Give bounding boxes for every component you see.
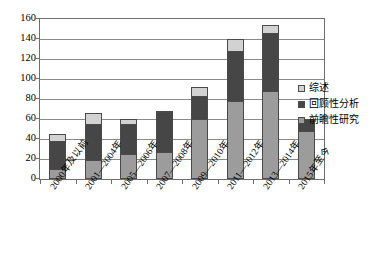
- bar-segment-回顾性分析: [191, 96, 208, 119]
- y-axis-tick-60: 60: [6, 113, 36, 124]
- legend-label: 综述: [309, 83, 329, 93]
- bar-6: [227, 39, 244, 179]
- bar-segment-回顾性分析: [120, 124, 137, 154]
- y-axis-tick-100: 100: [6, 73, 36, 84]
- x-tick-mark: [182, 180, 183, 184]
- y-tick-mark: [35, 98, 39, 99]
- y-tick-mark: [35, 18, 39, 19]
- bar-segment-综述: [262, 25, 279, 33]
- bar-segment-回顾性分析: [227, 51, 244, 101]
- y-axis-tick-160: 160: [6, 13, 36, 24]
- y-tick-mark: [35, 178, 39, 179]
- y-tick-mark: [35, 138, 39, 139]
- bar-segment-回顾性分析: [262, 33, 279, 91]
- y-axis-tick-40: 40: [6, 133, 36, 144]
- x-tick-mark: [289, 180, 290, 184]
- x-tick-mark: [324, 180, 325, 184]
- bar-segment-综述: [227, 39, 244, 51]
- stacked-bar-chart: 160 140 120 100 80 60 40 20 0 2000年及以前20…: [0, 0, 371, 258]
- y-tick-mark: [35, 78, 39, 79]
- legend-swatch-icon: [298, 117, 305, 124]
- x-tick-mark: [111, 180, 112, 184]
- x-tick-mark: [76, 180, 77, 184]
- bar-segment-综述: [191, 87, 208, 96]
- y-axis-tick-120: 120: [6, 53, 36, 64]
- bar-7: [262, 25, 279, 179]
- legend-swatch-icon: [298, 101, 305, 108]
- legend-swatch-icon: [298, 85, 305, 92]
- legend-item-2[interactable]: 回顾性分析: [298, 99, 359, 109]
- y-axis-tick-20: 20: [6, 153, 36, 164]
- y-tick-mark: [35, 158, 39, 159]
- y-tick-mark: [35, 118, 39, 119]
- x-tick-mark: [253, 180, 254, 184]
- y-tick-mark: [35, 58, 39, 59]
- legend: 综述回顾性分析前瞻性研究: [298, 83, 359, 125]
- legend-label: 前瞻性研究: [309, 115, 359, 125]
- bar-segment-综述: [85, 113, 102, 124]
- x-tick-mark: [40, 180, 41, 184]
- y-axis-tick-80: 80: [6, 93, 36, 104]
- bar-segment-综述: [49, 134, 66, 141]
- y-axis-tick-140: 140: [6, 33, 36, 44]
- x-tick-mark: [218, 180, 219, 184]
- legend-item-3[interactable]: 前瞻性研究: [298, 115, 359, 125]
- y-axis-tick-0: 0: [6, 173, 36, 184]
- legend-item-1[interactable]: 综述: [298, 83, 359, 93]
- legend-label: 回顾性分析: [309, 99, 359, 109]
- y-tick-mark: [35, 38, 39, 39]
- x-tick-mark: [147, 180, 148, 184]
